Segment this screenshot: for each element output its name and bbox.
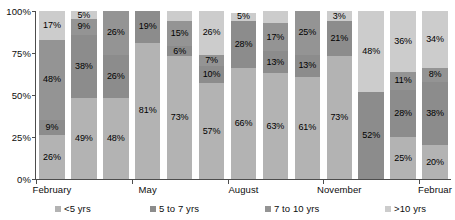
bar-segment: 63%: [263, 73, 289, 179]
bar-segment-label: 20%: [426, 158, 444, 167]
bar-segment: 6%: [167, 46, 193, 56]
bar-segment-label: 8%: [429, 70, 442, 79]
bar-segment: 17%: [263, 23, 289, 52]
bar-segment-label: 38%: [426, 109, 444, 118]
bar-segment-label: 17%: [43, 21, 61, 30]
y-axis-tick-mark: [32, 11, 36, 12]
legend-swatch-icon: [150, 206, 156, 212]
bar-segment: 26%: [199, 11, 225, 55]
legend-label: >10 yrs: [394, 203, 426, 214]
bar-segment-label: 26%: [203, 28, 221, 37]
bar-segment-label: 61%: [298, 123, 316, 132]
y-axis-tick-mark: [32, 53, 36, 54]
bar-column: 57%10%7%26%: [199, 11, 225, 179]
bar-segment: 9%: [39, 120, 65, 135]
bar-segment-label: 11%: [395, 76, 412, 85]
bar-segment-label: 7%: [205, 56, 218, 65]
bar-segment: 36%: [390, 11, 416, 71]
y-axis-tick-label: 25%: [12, 132, 31, 143]
bar-segment: 48%: [358, 11, 384, 92]
bar-segment-label: 19%: [139, 22, 157, 31]
bar-segment-label: 5%: [77, 11, 90, 19]
bar-segment-label: 63%: [267, 122, 285, 131]
bar-segment: 73%: [167, 56, 193, 179]
bar-segment: [263, 11, 289, 23]
bar-segment: 38%: [422, 82, 448, 146]
bar-segment-label: 48%: [107, 134, 125, 143]
y-axis-tick-mark: [32, 95, 36, 96]
x-axis-tick-mark: [36, 180, 37, 184]
bar-column: 48%26%26%: [103, 11, 129, 179]
bar-segment: 13%: [295, 55, 321, 77]
bar-segment-label: 34%: [426, 35, 444, 44]
bar-segment-label: 28%: [394, 109, 412, 118]
bar-segment-label: 73%: [171, 113, 189, 122]
bar-segment-label: 9%: [77, 22, 90, 31]
bar-segment-label: 13%: [267, 58, 285, 67]
bar-segment: 38%: [71, 35, 97, 99]
bar-column: 52%48%: [358, 11, 384, 179]
y-axis-tick-mark: [32, 137, 36, 138]
bar-segment: 66%: [231, 68, 257, 179]
bar-segment: [167, 11, 193, 21]
bar-segment-label: 17%: [267, 33, 285, 42]
bar-column: 73%21%3%: [327, 11, 353, 179]
x-axis-category-label: Februar: [418, 184, 452, 195]
bar-segment-label: 49%: [75, 134, 93, 143]
bar-segment-label: 13%: [298, 61, 316, 70]
stacked-bar-chart: 0%25%50%75%100% 26%9%48%17%49%38%9%5%48%…: [0, 0, 455, 220]
bar-segment: 7%: [199, 55, 225, 67]
y-axis-tick-label: 100%: [6, 6, 31, 17]
bar-segment: 26%: [39, 135, 65, 179]
bar-segment: 28%: [390, 90, 416, 137]
bar-segment-label: 36%: [394, 37, 412, 46]
bar-segment: 25%: [390, 137, 416, 179]
bar-segment: 10%: [199, 66, 225, 83]
bar-segment-label: 15%: [171, 29, 189, 38]
chart-legend: <5 yrs5 to 7 yrs7 to 10 yrs>10 yrs: [0, 203, 455, 217]
bar-segment: 81%: [135, 43, 161, 179]
bar-segment: 26%: [103, 55, 129, 99]
bar-column: 25%28%11%36%: [390, 11, 416, 179]
bar-segment: 49%: [71, 98, 97, 179]
bar-segment-label: 26%: [107, 28, 125, 37]
legend-item[interactable]: 5 to 7 yrs: [150, 203, 199, 214]
bar-segment: 13%: [263, 51, 289, 73]
x-axis-category-label: August: [228, 184, 258, 195]
legend-label: 7 to 10 yrs: [274, 203, 319, 214]
bar-segment-label: 48%: [43, 75, 61, 84]
bar-segment-label: 48%: [362, 47, 380, 56]
legend-item[interactable]: <5 yrs: [55, 203, 91, 214]
bar-column: 73%6%15%: [167, 11, 193, 179]
bar-segment: 48%: [103, 98, 129, 179]
y-axis-tick-label: 50%: [12, 90, 31, 101]
bar-column: 66%28%5%: [231, 11, 257, 179]
y-axis-tick-label: 0%: [17, 174, 31, 185]
x-axis-category-label: February: [33, 184, 72, 195]
x-axis-tick-mark: [228, 180, 229, 184]
legend-item[interactable]: 7 to 10 yrs: [265, 203, 319, 214]
bar-segment-label: 57%: [203, 127, 221, 136]
bar-column: 49%38%9%5%: [71, 11, 97, 179]
legend-swatch-icon: [385, 206, 391, 212]
bar-segment-label: 28%: [235, 40, 253, 49]
bar-segment: 19%: [135, 11, 161, 43]
bar-segment-label: 52%: [362, 131, 380, 140]
bar-segment-label: 73%: [330, 113, 348, 122]
x-axis-category-label: May: [139, 184, 157, 195]
legend-label: <5 yrs: [64, 203, 91, 214]
bar-segment: 5%: [71, 11, 97, 19]
legend-item[interactable]: >10 yrs: [385, 203, 426, 214]
bar-segment-label: 6%: [173, 47, 186, 56]
x-axis-tick-mark: [132, 180, 133, 184]
legend-swatch-icon: [55, 206, 61, 212]
x-axis-tick-mark: [419, 180, 420, 184]
bar-segment: 25%: [295, 11, 321, 55]
bar-segment: 20%: [422, 145, 448, 179]
bar-segment: 28%: [231, 21, 257, 68]
bar-column: 20%38%8%34%: [422, 11, 448, 179]
bar-segment: 57%: [199, 83, 225, 179]
bar-segment-label: 10%: [203, 70, 221, 79]
bar-segment: 5%: [231, 13, 257, 21]
bar-column: 63%13%17%: [263, 11, 289, 179]
